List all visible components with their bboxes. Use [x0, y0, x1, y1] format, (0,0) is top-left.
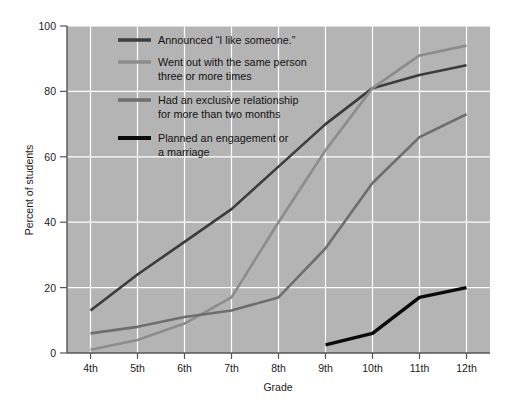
- x-tick-label: 9th: [318, 362, 333, 374]
- line-chart-svg: 020406080100 4th5th6th7th8th9th10th11th1…: [0, 0, 514, 400]
- legend-label: Planned an engagement or: [158, 132, 289, 144]
- legend-label: for more than two months: [158, 108, 281, 120]
- legend-label: Announced “I like someone.”: [158, 34, 296, 46]
- x-tick-label: 6th: [177, 362, 192, 374]
- y-tick-label: 20: [44, 282, 56, 294]
- legend-label: Had an exclusive relationship: [158, 94, 298, 106]
- legend-label: a marriage: [158, 146, 210, 158]
- y-tick-label: 80: [44, 85, 56, 97]
- x-tick-label: 10th: [362, 362, 383, 374]
- x-tick-label: 4th: [83, 362, 98, 374]
- chart-figure: 020406080100 4th5th6th7th8th9th10th11th1…: [0, 0, 514, 400]
- x-axis-title: Grade: [263, 381, 292, 393]
- legend-label: Went out with the same person: [158, 56, 307, 68]
- x-tick-label: 11th: [410, 362, 430, 374]
- y-tick-label: 60: [44, 151, 56, 163]
- y-tick-label: 100: [38, 20, 56, 32]
- legend-label: three or more times: [158, 70, 252, 82]
- y-tick-label: 0: [50, 347, 56, 359]
- y-tick-label: 40: [44, 216, 56, 228]
- x-tick-label: 12th: [456, 362, 477, 374]
- y-axis-title: Percent of students: [23, 145, 35, 235]
- x-tick-label: 7th: [224, 362, 239, 374]
- x-tick-label: 8th: [271, 362, 286, 374]
- x-tick-label: 5th: [130, 362, 145, 374]
